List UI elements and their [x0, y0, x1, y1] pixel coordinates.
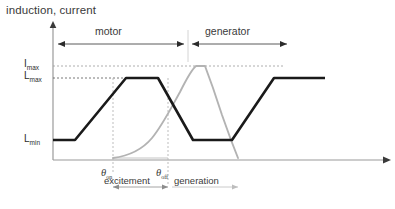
x-axis-arrow	[383, 157, 391, 164]
y-tick-lmax: Lmax	[24, 70, 42, 83]
generation-span-right-arrow	[232, 185, 238, 190]
phase-current-curve	[113, 66, 238, 158]
inductance-curve	[53, 78, 325, 140]
axes-group	[50, 21, 391, 163]
span-label-generation: generation	[174, 175, 219, 186]
generator-span-right-arrow	[280, 41, 287, 47]
theta-off-label: θoff	[156, 167, 168, 180]
excitement-span-right-arrow	[162, 185, 168, 190]
motor-span-right-arrow	[177, 41, 184, 47]
y-tick-lmax-sub: max	[30, 76, 42, 83]
generator-span-left-arrow	[192, 41, 199, 47]
y-axis-arrow	[50, 21, 57, 28]
guide-lines-group	[53, 66, 285, 78]
region-arrows-group	[58, 41, 287, 47]
motor-span-left-arrow	[58, 41, 65, 47]
page-title: induction, current	[6, 4, 96, 16]
theta-off-sub: off	[161, 174, 168, 180]
region-label-motor: motor	[95, 25, 122, 37]
region-label-generator: generator	[205, 25, 250, 37]
y-tick-lmin: Lmin	[24, 133, 40, 146]
span-label-excitement: excitement	[104, 175, 150, 186]
y-tick-lmin-sub: min	[30, 139, 40, 146]
